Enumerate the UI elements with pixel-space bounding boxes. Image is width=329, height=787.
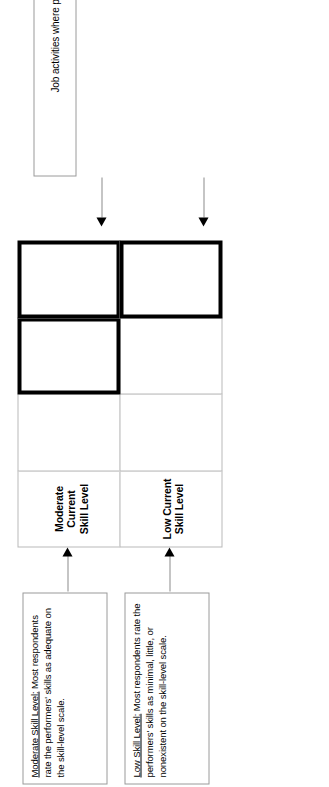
arrow-head-note-bottom bbox=[198, 217, 208, 226]
matrix-cell-r1c1 bbox=[119, 393, 222, 471]
row-label-low: Low Current Skill Level bbox=[160, 471, 185, 546]
matrix-cell-r0c1 bbox=[17, 393, 120, 471]
row-label-moderate-line2: Current bbox=[64, 490, 76, 527]
connector-line-moderate bbox=[67, 555, 68, 591]
callout-low-heading: Low Skill Level: bbox=[130, 713, 141, 777]
matrix-cell-r1c2 bbox=[119, 317, 222, 394]
connector-line-note-top bbox=[101, 177, 102, 217]
skill-matrix: Moderate Current Skill Level Low Current… bbox=[17, 240, 222, 547]
matrix-cell-r0c3-highlighted bbox=[17, 240, 120, 318]
matrix-cell-r0c0: Moderate Current Skill Level bbox=[17, 470, 120, 547]
connector-line-low bbox=[169, 555, 170, 591]
row-label-moderate-line3: Skill Level bbox=[77, 483, 89, 533]
row-label-moderate: Moderate Current Skill Level bbox=[52, 471, 89, 546]
matrix-cell-r1c3-highlighted bbox=[119, 240, 222, 318]
note-box: Job activities where performers require … bbox=[33, 0, 76, 176]
arrow-head-low bbox=[164, 547, 174, 556]
callout-low-skill-level: Low Skill Level: Most respondents rate t… bbox=[124, 592, 209, 784]
matrix-cell-r0c2-highlighted bbox=[17, 317, 120, 394]
arrow-head-moderate bbox=[62, 547, 72, 556]
note-text: Job activities where performers require … bbox=[49, 0, 60, 92]
callout-moderate-heading: Moderate Skill Level: bbox=[28, 691, 39, 777]
row-label-low-line1: Low Current bbox=[160, 478, 172, 539]
callout-moderate-skill-level: Moderate Skill Level: Most respondents r… bbox=[22, 592, 107, 784]
row-label-low-line2: Skill Level bbox=[172, 483, 184, 533]
arrow-head-note-top bbox=[96, 217, 106, 226]
matrix-cell-r1c0: Low Current Skill Level bbox=[119, 470, 222, 547]
diagram-stage: Moderate Current Skill Level Low Current… bbox=[0, 0, 329, 787]
row-label-moderate-line1: Moderate bbox=[52, 486, 64, 532]
connector-line-note-bottom bbox=[203, 177, 204, 217]
